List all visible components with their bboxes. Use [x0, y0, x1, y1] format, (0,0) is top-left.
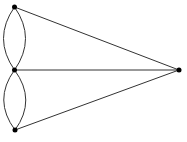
graph-diagram — [0, 0, 187, 142]
edge-A-B-left — [4, 7, 15, 70]
node-D — [177, 68, 182, 73]
edge-A-B-right — [15, 7, 26, 70]
edge-C-D — [15, 70, 179, 130]
node-C — [13, 128, 18, 133]
node-A — [12, 5, 17, 10]
edge-B-C-left — [4, 70, 15, 130]
node-B — [12, 68, 17, 73]
edge-A-D — [15, 7, 180, 70]
edge-B-C-right — [15, 70, 26, 130]
